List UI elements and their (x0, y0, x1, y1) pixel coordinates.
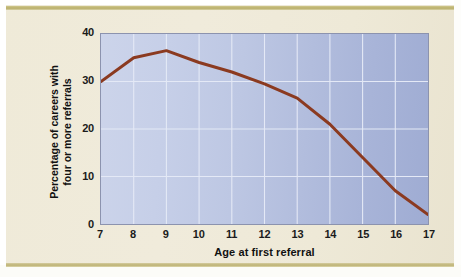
x-axis-tick-10: 10 (188, 228, 210, 240)
x-axis-tick-9: 9 (155, 228, 177, 240)
x-axis-tick-8: 8 (122, 228, 144, 240)
line-chart: 010203040 7891011121314151617 Age at fir… (0, 0, 461, 277)
y-axis-tick-40: 40 (68, 26, 94, 38)
x-axis-title: Age at first referral (100, 246, 429, 258)
plot-area (100, 33, 429, 225)
y-axis-title-line-2: four or more referrals (61, 52, 74, 212)
x-axis-tick-11: 11 (221, 228, 243, 240)
x-axis-tick-7: 7 (89, 228, 111, 240)
x-axis-tick-16: 16 (385, 228, 407, 240)
x-axis-tick-13: 13 (286, 228, 308, 240)
x-axis-tick-15: 15 (352, 228, 374, 240)
data-series-line (101, 34, 428, 224)
x-axis-tick-17: 17 (418, 228, 440, 240)
x-axis-tick-14: 14 (319, 228, 341, 240)
figure-page: 010203040 7891011121314151617 Age at fir… (0, 0, 461, 277)
y-axis-title-line-1: Percentage of careers with (48, 52, 61, 212)
x-axis-tick-12: 12 (254, 228, 276, 240)
